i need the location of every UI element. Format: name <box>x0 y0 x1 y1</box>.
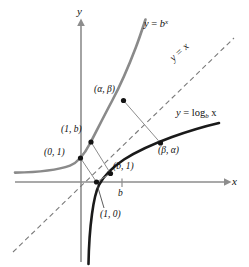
reflection-connector-alpha-beta <box>124 101 161 144</box>
y-axis <box>77 19 85 263</box>
exp-label-exponent: x <box>165 18 168 25</box>
log-label-arg: x <box>209 107 217 118</box>
point-alpha-beta <box>121 98 126 103</box>
x-tick-label-b: b <box>118 189 123 199</box>
point-label-alpha-beta: (α, β) <box>94 85 115 95</box>
math-figure: y x b y = bx y = logb x y = x (α, β) (1,… <box>0 0 249 267</box>
logarithmic-curve <box>89 123 220 264</box>
logarithmic-curve-label: y = logb x <box>176 108 217 119</box>
exponential-curve-label: y = bx <box>144 19 168 30</box>
leader-line-one-zero <box>98 186 105 208</box>
point-label-one-zero: (1, 0) <box>100 210 121 220</box>
x-axis-label: x <box>232 176 237 187</box>
point-label-b-one: (b, 1) <box>113 162 134 172</box>
point-b-one <box>108 171 113 176</box>
exp-label-eq: = <box>149 18 160 29</box>
point-one-b <box>88 139 93 144</box>
y-axis-label: y <box>77 6 82 17</box>
point-one-zero <box>94 179 99 184</box>
point-zero-one <box>78 155 83 160</box>
point-label-zero-one: (0, 1) <box>44 148 65 158</box>
point-label-one-b: (1, b) <box>61 125 82 135</box>
point-label-beta-alpha: (β, α) <box>158 146 179 156</box>
x-axis <box>15 178 232 187</box>
identity-line-y-equals-x <box>13 38 234 252</box>
log-label-eq: = log <box>181 107 206 118</box>
figure-canvas <box>0 0 249 267</box>
